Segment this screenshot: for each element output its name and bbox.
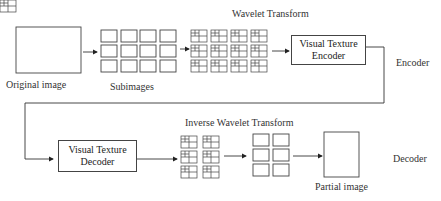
encoder-box-line2: Encoder [292, 50, 365, 62]
subimages-grid [101, 30, 176, 72]
encoder-side-label: Encoder [396, 57, 429, 68]
original-image-box [16, 27, 81, 73]
decoder-box-line2: Decoder [59, 156, 136, 168]
inverse-wavelet-grid [181, 136, 219, 178]
inverse-wavelet-transform-label: Inverse Wavelet Transform [185, 117, 293, 128]
decoder-side-label: Decoder [393, 153, 427, 164]
partial-image-box [324, 132, 359, 177]
reconstructed-subimages-grid [253, 134, 289, 176]
original-image-label: Original image [6, 79, 66, 90]
subimages-label: Subimages [110, 81, 154, 92]
visual-texture-decoder-box: Visual Texture Decoder [58, 140, 137, 172]
wavelet-transform-label: Wavelet Transform [232, 8, 309, 19]
visual-texture-encoder-box: Visual Texture Encoder [291, 35, 366, 65]
decoder-box-line1: Visual Texture [59, 144, 136, 156]
partial-image-label: Partial image [315, 181, 368, 192]
encoder-box-line1: Visual Texture [292, 38, 365, 50]
